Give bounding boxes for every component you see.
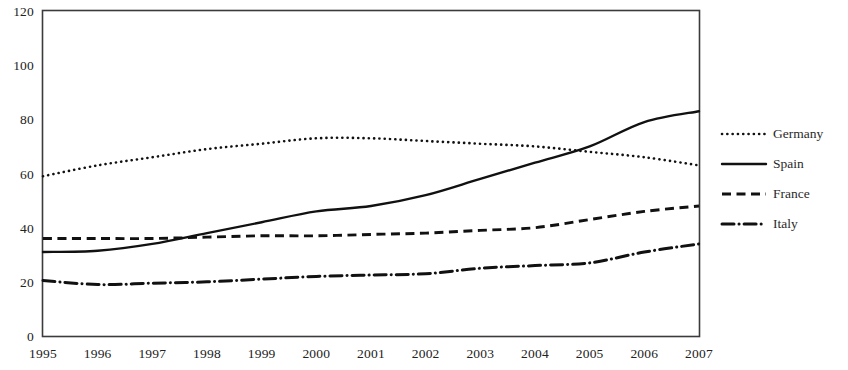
x-axis-tick-label: 2004	[521, 346, 549, 361]
x-axis-tick-label: 2002	[412, 346, 440, 361]
legend-label-germany: Germany	[773, 126, 823, 141]
legend-label-italy: Italy	[773, 216, 798, 231]
chart-canvas: 020406080100120 199519961997199819992000…	[0, 0, 848, 370]
y-axis-tick-label: 80	[20, 112, 34, 127]
y-axis-tick-label: 100	[13, 58, 34, 73]
y-axis-tick-label: 20	[20, 275, 34, 290]
x-axis-tick-label: 2001	[357, 346, 385, 361]
y-axis-tick-labels: 020406080100120	[13, 4, 34, 344]
x-axis-tick-label: 2000	[302, 346, 330, 361]
legend-label-spain: Spain	[773, 156, 804, 171]
x-axis-tick-label: 1996	[84, 346, 112, 361]
series-group	[43, 111, 699, 284]
x-axis-tick-label: 1999	[248, 346, 276, 361]
series-line-spain	[43, 111, 699, 252]
y-axis-tick-label: 120	[13, 4, 34, 19]
x-axis-tick-label: 2005	[576, 346, 604, 361]
x-axis-tick-labels: 1995199619971998199920002001200220032004…	[29, 346, 713, 361]
x-axis-tick-label: 1997	[138, 346, 166, 361]
x-axis-tick-label: 2003	[466, 346, 494, 361]
line-chart: 020406080100120 199519961997199819992000…	[0, 0, 848, 370]
x-axis-tick-label: 2006	[630, 346, 658, 361]
y-axis-tick-label: 40	[20, 221, 34, 236]
x-axis-tick-label: 1998	[193, 346, 221, 361]
x-axis-tick-label: 2007	[685, 346, 713, 361]
y-axis-tick-label: 0	[27, 329, 34, 344]
series-line-germany	[43, 138, 699, 176]
y-axis-tick-label: 60	[20, 167, 34, 182]
plot-area-frame	[43, 11, 700, 337]
legend-label-france: France	[773, 186, 810, 201]
x-axis-tick-label: 1995	[29, 346, 57, 361]
series-line-france	[43, 206, 699, 239]
legend: GermanySpainFranceItaly	[722, 126, 823, 231]
series-line-italy	[43, 244, 699, 285]
